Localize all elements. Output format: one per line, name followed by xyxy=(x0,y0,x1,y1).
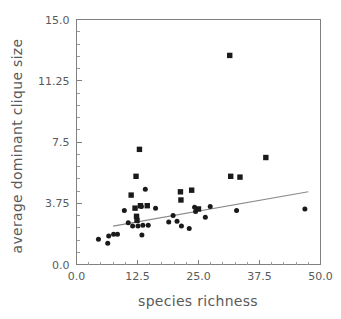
data-point-circle xyxy=(130,224,135,229)
data-point-circle xyxy=(146,223,151,228)
axis-frame xyxy=(77,20,321,265)
data-point-circle xyxy=(106,233,111,238)
x-axis-tick-labels: 0.012.525.037.550.0 xyxy=(68,270,333,283)
data-point-circle xyxy=(166,220,171,225)
data-point-circle xyxy=(105,241,110,246)
data-point-square xyxy=(128,192,133,197)
y-tick-label: 15.0 xyxy=(45,14,70,27)
data-point-circle xyxy=(187,226,192,231)
data-point-square xyxy=(145,203,150,208)
data-point-circle xyxy=(115,232,120,237)
data-point-circle xyxy=(153,206,158,211)
data-point-circle xyxy=(234,208,239,213)
data-point-circle xyxy=(139,204,144,209)
data-point-square xyxy=(134,218,139,223)
data-point-circle xyxy=(96,237,101,242)
data-point-square xyxy=(237,174,242,179)
data-point-square xyxy=(196,206,201,211)
data-point-square xyxy=(263,155,268,160)
data-point-circle xyxy=(171,213,176,218)
y-tick-label: 0.0 xyxy=(52,259,70,272)
data-point-circle xyxy=(208,204,213,209)
plot-frame xyxy=(77,20,321,265)
data-point-circle xyxy=(175,219,180,224)
x-axis-title: species richness xyxy=(138,293,258,309)
figure-container: 0.012.525.037.550.0 0.03.757.511.2515.0 … xyxy=(0,0,341,319)
data-point-square xyxy=(178,189,183,194)
data-point-square xyxy=(178,197,183,202)
data-point-square xyxy=(227,53,232,58)
x-tick-label: 37.5 xyxy=(247,270,272,283)
y-axis-title: average dominant clique size xyxy=(9,39,25,254)
data-point-square xyxy=(133,174,138,179)
data-point-circle xyxy=(179,224,184,229)
x-tick-label: 25.0 xyxy=(186,270,211,283)
data-point-circle xyxy=(140,223,145,228)
x-tick-label: 12.5 xyxy=(125,270,150,283)
data-point-circle xyxy=(302,206,307,211)
data-point-square xyxy=(189,187,194,192)
data-point-circle xyxy=(203,215,208,220)
data-point-square xyxy=(132,205,137,210)
data-point-circle xyxy=(122,208,127,213)
y-tick-label: 3.75 xyxy=(45,197,70,210)
data-point-series xyxy=(96,53,307,246)
y-tick-label: 7.5 xyxy=(52,136,70,149)
scatter-plot: 0.012.525.037.550.0 0.03.757.511.2515.0 … xyxy=(0,0,341,319)
data-point-circle xyxy=(135,224,140,229)
data-point-square xyxy=(137,147,142,152)
data-point-square xyxy=(228,174,233,179)
data-point-circle xyxy=(143,187,148,192)
data-point-circle xyxy=(139,233,144,238)
x-tick-label: 0.0 xyxy=(68,270,86,283)
y-tick-label: 11.25 xyxy=(38,75,70,88)
y-axis-tick-labels: 0.03.757.511.2515.0 xyxy=(38,14,70,272)
data-point-circle xyxy=(126,220,131,225)
x-tick-label: 50.0 xyxy=(308,270,333,283)
